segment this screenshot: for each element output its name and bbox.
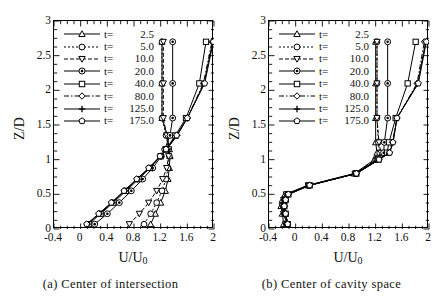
legend-label-prefix: t= xyxy=(104,29,120,40)
x-tick-label: -0.4 xyxy=(44,231,62,243)
legend-label: t=5.0 xyxy=(104,41,154,52)
legend-label: t=2.5 xyxy=(104,29,154,40)
x-tick-label: 0.4 xyxy=(314,231,328,243)
legend-label-prefix: t= xyxy=(319,66,335,77)
legend-label-prefix: t= xyxy=(104,41,120,52)
legend-marker-triangle-down-icon xyxy=(62,53,102,65)
x-tick-label: 0 xyxy=(77,231,83,243)
legend-item: t=5.0 xyxy=(62,40,154,52)
legend-label-prefix: t= xyxy=(319,53,335,64)
legend-item: t=80.0 xyxy=(277,90,369,102)
x-tick-label: 2 xyxy=(425,231,431,243)
legend-label: t=40.0 xyxy=(104,78,154,89)
legend-label-value: 80.0 xyxy=(120,91,154,102)
legend-label-value: 80.0 xyxy=(335,91,369,102)
legend-marker-circle-icon xyxy=(277,41,317,53)
legend-marker-square-icon xyxy=(277,78,317,90)
legend-label-value: 175.0 xyxy=(335,115,369,126)
legend-label-prefix: t= xyxy=(104,66,120,77)
legend-item: t=175.0 xyxy=(277,115,369,127)
legend-label-value: 10.0 xyxy=(335,53,369,64)
legend-marker-circle-icon xyxy=(62,41,102,53)
legend-marker-circle-dot-icon xyxy=(277,65,317,77)
legend-label: t=175.0 xyxy=(319,115,369,126)
legend-marker-plus-icon xyxy=(277,103,317,115)
y-tick-label: 1.5 xyxy=(37,118,51,130)
panel-a: Z/D 00.511.522.53 t=2.5t=5.0t=10.0t=20.0… xyxy=(0,0,221,305)
y-tick-label: 2 xyxy=(260,83,266,95)
y-tick-label: 0.5 xyxy=(252,187,266,199)
panel-a-x-axis-title-sub: 0 xyxy=(143,255,148,266)
legend-label-value: 175.0 xyxy=(120,115,154,126)
legend-label-value: 20.0 xyxy=(120,66,154,77)
y-tick-label: 1 xyxy=(260,153,266,165)
legend-label: t=10.0 xyxy=(104,53,154,64)
legend-label: t=125.0 xyxy=(104,103,154,114)
legend-label: t=80.0 xyxy=(104,91,154,102)
y-tick-label: 1.5 xyxy=(252,118,266,130)
legend-label-value: 40.0 xyxy=(120,78,154,89)
y-tick-label: 0.5 xyxy=(37,187,51,199)
legend-marker-plus-icon xyxy=(62,103,102,115)
legend-label-value: 10.0 xyxy=(120,53,154,64)
legend-label-prefix: t= xyxy=(319,115,335,126)
legend-label: t=5.0 xyxy=(319,41,369,52)
legend-label: t=80.0 xyxy=(319,91,369,102)
legend-label-value: 2.5 xyxy=(335,29,369,40)
legend-label: t=2.5 xyxy=(319,29,369,40)
panel-b-y-ticklabels: 00.511.522.53 xyxy=(240,20,266,228)
legend-marker-square-icon xyxy=(62,78,102,90)
legend-label: t=20.0 xyxy=(319,66,369,77)
panel-a-x-axis-title-text: U/U xyxy=(118,250,142,265)
legend-label-value: 125.0 xyxy=(335,103,369,114)
panel-a-legend: t=2.5t=5.0t=10.0t=20.0t=40.0t=80.0t=125.… xyxy=(62,28,154,127)
legend-item: t=2.5 xyxy=(277,28,369,40)
legend-item: t=10.0 xyxy=(62,53,154,65)
legend-marker-circle-dot-icon xyxy=(62,65,102,77)
panel-a-x-axis-title: U/U0 xyxy=(118,250,147,266)
figure-container: Z/D 00.511.522.53 t=2.5t=5.0t=10.0t=20.0… xyxy=(0,0,442,305)
panel-b-x-axis-title: U/U0 xyxy=(333,250,362,266)
legend-label-prefix: t= xyxy=(104,53,120,64)
panel-a-y-ticklabels: 00.511.522.53 xyxy=(25,20,51,228)
legend-label-prefix: t= xyxy=(319,41,335,52)
legend-marker-triangle-up-icon xyxy=(62,28,102,40)
legend-label: t=10.0 xyxy=(319,53,369,64)
legend-label-value: 20.0 xyxy=(335,66,369,77)
legend-label-prefix: t= xyxy=(319,103,335,114)
panel-b-x-axis-title-sub: 0 xyxy=(358,255,363,266)
panel-b: Z/D 00.511.522.53 t=2.5t=5.0t=10.0t=20.0… xyxy=(221,0,442,305)
legend-marker-triangle-up-icon xyxy=(277,28,317,40)
legend-label-value: 40.0 xyxy=(335,78,369,89)
legend-marker-pentagon-icon xyxy=(277,115,317,127)
legend-marker-diamond-icon xyxy=(277,90,317,102)
legend-label-value: 5.0 xyxy=(335,41,369,52)
x-tick-label: 1.2 xyxy=(152,231,166,243)
legend-label-prefix: t= xyxy=(104,91,120,102)
panel-a-caption: (a) Center of intersection xyxy=(0,277,221,292)
legend-label-prefix: t= xyxy=(104,103,120,114)
legend-label-prefix: t= xyxy=(104,78,120,89)
panel-b-legend: t=2.5t=5.0t=10.0t=20.0t=40.0t=80.0t=125.… xyxy=(277,28,369,127)
legend-item: t=20.0 xyxy=(62,65,154,77)
legend-item: t=40.0 xyxy=(62,78,154,90)
legend-label: t=40.0 xyxy=(319,78,369,89)
x-tick-label: 1.6 xyxy=(394,231,408,243)
legend-marker-triangle-down-icon xyxy=(277,53,317,65)
legend-label: t=175.0 xyxy=(104,115,154,126)
legend-label-prefix: t= xyxy=(104,115,120,126)
x-tick-label: 2 xyxy=(210,231,216,243)
legend-item: t=40.0 xyxy=(277,78,369,90)
panel-b-caption: (b) Center of cavity space xyxy=(221,277,442,292)
legend-label-value: 5.0 xyxy=(120,41,154,52)
y-tick-label: 2.5 xyxy=(252,49,266,61)
legend-item: t=10.0 xyxy=(277,53,369,65)
y-tick-label: 2 xyxy=(45,83,51,95)
panel-b-x-ticklabels: -0.400.40.81.21.62 xyxy=(268,231,428,249)
panel-b-x-axis-title-text: U/U xyxy=(333,250,357,265)
x-tick-label: 0 xyxy=(292,231,298,243)
panel-a-x-ticklabels: -0.400.40.81.21.62 xyxy=(53,231,213,249)
legend-marker-pentagon-icon xyxy=(62,115,102,127)
legend-label: t=20.0 xyxy=(104,66,154,77)
x-tick-label: 0.8 xyxy=(341,231,355,243)
